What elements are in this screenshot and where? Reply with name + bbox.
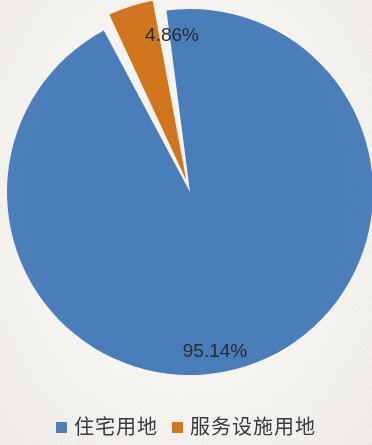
legend-item-service-facility[interactable]: 服务设施用地 — [172, 417, 316, 437]
legend-label-service-facility: 服务设施用地 — [190, 417, 316, 437]
legend-label-residential: 住宅用地 — [74, 417, 158, 437]
pie-plot-area: 95.14% 4.86% — [0, 0, 372, 390]
legend-swatch-service-facility — [172, 422, 183, 433]
chart-legend: 住宅用地 服务设施用地 — [0, 417, 372, 437]
pie-svg: 95.14% 4.86% — [0, 0, 372, 390]
pie-chart: 95.14% 4.86% 住宅用地 服务设施用地 — [0, 0, 372, 445]
legend-item-residential[interactable]: 住宅用地 — [56, 417, 158, 437]
legend-swatch-residential — [56, 422, 67, 433]
pie-label-residential: 95.14% — [183, 340, 248, 361]
pie-label-service-facility: 4.86% — [145, 24, 199, 45]
pie-slice-residential[interactable] — [7, 9, 372, 375]
